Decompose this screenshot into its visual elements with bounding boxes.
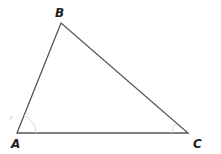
vertex-label-a: A	[10, 137, 20, 151]
vertex-label-c: C	[193, 137, 202, 151]
vertex-label-b: B	[55, 6, 64, 20]
triangle-diagram: A B C	[0, 0, 221, 154]
angle-arc-c	[172, 123, 176, 133]
tick-mark-a	[10, 116, 12, 120]
triangle-abc	[17, 23, 188, 133]
angle-arc-a	[24, 116, 36, 134]
